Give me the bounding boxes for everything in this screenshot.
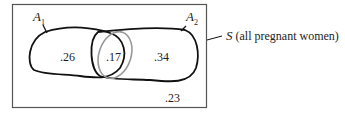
universe-leader-line xyxy=(207,36,222,40)
a2-only-value: .34 xyxy=(154,51,169,63)
outside-value: .23 xyxy=(165,92,180,104)
intersection-value: .17 xyxy=(106,51,121,63)
universe-label: S (all pregnant women) xyxy=(226,30,339,42)
a1-only-value: .26 xyxy=(60,51,75,63)
set-a1-label: A1 xyxy=(33,11,45,29)
set-a2-label: A2 xyxy=(186,11,198,29)
